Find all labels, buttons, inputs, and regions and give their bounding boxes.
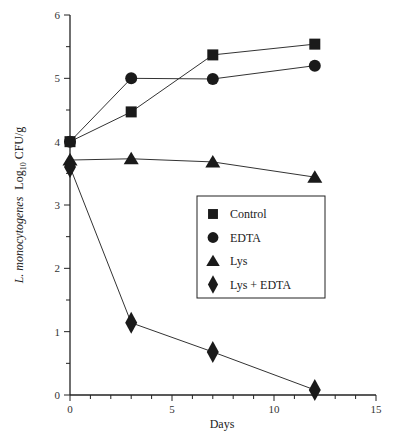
line-chart: 0123456051015 ControlEDTALysLys + EDTA D… (0, 0, 393, 438)
x-tick-label: 0 (67, 403, 73, 415)
diamond-marker-icon (207, 341, 219, 363)
legend-label: Lys + EDTA (230, 278, 291, 292)
square-marker-icon (309, 39, 320, 50)
square-marker-icon (208, 209, 218, 219)
y-axis-title-unit: CFU/g (12, 127, 26, 160)
diamond-marker-icon (309, 379, 321, 401)
square-marker-icon (207, 49, 218, 60)
series-control (70, 44, 315, 142)
series-markers (64, 60, 321, 148)
series-markers (63, 152, 323, 183)
y-axis-title: L. monocytogenes Log10CFU/g (12, 127, 28, 285)
legend-item: Control (208, 207, 267, 221)
triangle-marker-icon (205, 155, 220, 168)
y-tick-label: 0 (55, 389, 61, 401)
circle-marker-icon (64, 136, 76, 148)
y-tick-label: 2 (55, 262, 61, 274)
diamond-marker-icon (64, 156, 76, 178)
square-marker-icon (126, 106, 137, 117)
circle-marker-icon (309, 60, 321, 72)
circle-marker-icon (125, 72, 137, 84)
x-tick-label: 5 (169, 403, 175, 415)
legend-label: EDTA (230, 231, 261, 245)
x-tick-label: 15 (371, 403, 383, 415)
series-line (70, 159, 315, 177)
x-tick-label: 10 (269, 403, 281, 415)
series-markers (65, 39, 321, 148)
triangle-marker-icon (124, 152, 139, 165)
x-axis-title: Days (210, 417, 235, 431)
y-tick-label: 3 (55, 199, 61, 211)
diamond-marker-icon (125, 312, 137, 334)
series-line (70, 44, 315, 142)
y-tick-label: 1 (55, 326, 61, 338)
legend-label: Control (230, 207, 267, 221)
y-tick-label: 4 (55, 136, 61, 148)
legend-label: Lys (230, 254, 248, 268)
y-axis-title-log: Log (12, 170, 26, 189)
y-axis-title-subscript: 10 (19, 162, 28, 170)
y-tick-label: 5 (55, 72, 61, 84)
circle-marker-icon (207, 73, 219, 85)
series-edta (70, 66, 315, 142)
circle-marker-icon (208, 232, 219, 243)
series-line (70, 66, 315, 142)
y-axis-title-organism: L. monocytogenes (12, 196, 26, 284)
series-lys (70, 159, 315, 177)
y-tick-label: 6 (55, 9, 61, 21)
legend: ControlEDTALysLys + EDTA (197, 196, 325, 298)
